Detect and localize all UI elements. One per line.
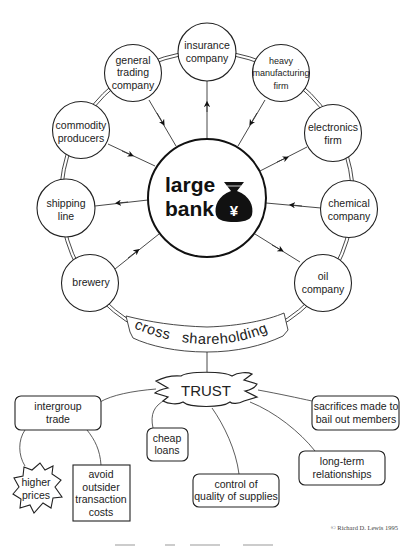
ring-node-electronics: electronics firm (305, 105, 362, 162)
ring-node-oil: oil company (295, 255, 352, 312)
svg-text:long-term: long-term (320, 455, 365, 467)
svg-text:manufacturing: manufacturing (252, 68, 309, 78)
svg-text:heavy: heavy (269, 56, 294, 66)
svg-text:brewery: brewery (72, 276, 110, 288)
svg-text:quality of supplies: quality of supplies (194, 490, 277, 502)
ring-node-chemical: chemical company (321, 181, 378, 238)
outcome-higher-prices: higher prices (13, 463, 62, 513)
bank-label-line2: bank (165, 197, 214, 220)
ring-node-insurance: insurance company (178, 23, 236, 81)
large-bank-node: large bank ¥ (148, 139, 266, 257)
svg-text:intergroup: intergroup (34, 400, 81, 412)
outcome-long-term: long-term relationships (299, 451, 385, 485)
trust-label: TRUST (181, 382, 231, 399)
svg-text:prices: prices (22, 489, 50, 501)
svg-text:general: general (115, 54, 150, 66)
svg-text:transaction: transaction (75, 493, 127, 505)
outcome-cheap-loans: cheap loans (147, 428, 188, 461)
svg-text:line: line (58, 210, 75, 222)
svg-text:shipping: shipping (46, 197, 85, 209)
svg-text:company: company (112, 79, 155, 91)
ring-node-commodity: commodity producers (53, 102, 110, 159)
svg-text:outsider: outsider (82, 481, 120, 493)
copyright-text: © Richard D. Lewis 1995 (331, 524, 398, 531)
svg-text:firm: firm (274, 81, 289, 91)
trust-cloud: TRUST (155, 372, 257, 406)
outcome-avoid-costs: avoid outsider transaction costs (73, 465, 130, 521)
svg-text:control of: control of (214, 478, 257, 490)
svg-text:chemical: chemical (328, 197, 369, 209)
svg-text:trade: trade (46, 413, 70, 425)
svg-text:costs: costs (89, 506, 114, 518)
svg-text:company: company (328, 210, 371, 222)
svg-text:loans: loans (154, 444, 179, 456)
svg-text:sacrifices made to: sacrifices made to (314, 400, 399, 412)
cross-shareholding-banner: cross shareholding (126, 313, 288, 352)
ring-node-brewery: brewery (62, 255, 119, 312)
outcome-control-quality: control of quality of supplies (193, 474, 279, 507)
ring-node-general-trading: general trading company (105, 45, 162, 102)
svg-text:producers: producers (58, 132, 105, 144)
svg-text:higher: higher (21, 476, 51, 488)
svg-text:firm: firm (324, 134, 342, 146)
svg-text:trading: trading (117, 66, 149, 78)
svg-text:bail out members: bail out members (316, 413, 397, 425)
bank-label-line1: large (165, 173, 215, 196)
outcome-intergroup-trade: intergroup trade (15, 396, 101, 430)
svg-text:company: company (186, 52, 229, 64)
svg-text:¥: ¥ (230, 202, 239, 219)
diagram-canvas: large bank ¥ insurance company general t… (0, 0, 416, 546)
svg-text:cheap: cheap (153, 432, 182, 444)
svg-text:commodity: commodity (56, 119, 108, 131)
svg-text:avoid: avoid (88, 468, 113, 480)
svg-text:company: company (302, 283, 345, 295)
ring-node-heavy-manufacturing: heavy manufacturing firm (252, 45, 309, 102)
ring-node-shipping: shipping line (37, 179, 95, 237)
outcome-sacrifices: sacrifices made to bail out members (312, 396, 399, 430)
svg-text:electronics: electronics (308, 121, 358, 133)
svg-text:insurance: insurance (184, 39, 230, 51)
svg-text:relationships: relationships (313, 468, 372, 480)
svg-text:oil: oil (318, 270, 329, 282)
